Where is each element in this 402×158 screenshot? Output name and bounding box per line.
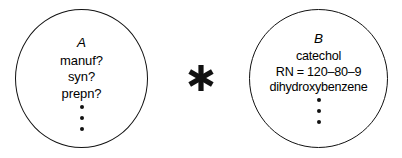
circle-node-b[interactable]: B catechol RN = 120–80–9 dihydroxybenzen… xyxy=(249,9,388,148)
circle-a-term-3: prepn? xyxy=(16,86,147,103)
circle-a-term-1: manuf? xyxy=(16,53,147,70)
circle-b-term-2: RN = 120–80–9 xyxy=(250,65,387,81)
circle-a-term-list: manuf? syn? prepn? xyxy=(16,53,147,103)
circle-b-term-3: dihydroxybenzene xyxy=(250,80,387,96)
diagram-canvas: A manuf? syn? prepn? B xyxy=(0,0,402,158)
circle-a-vertical-ellipsis xyxy=(77,105,87,131)
ellipsis-dot xyxy=(317,98,321,102)
ellipsis-dot xyxy=(317,120,321,124)
asterisk-icon xyxy=(185,61,217,95)
circle-b-vertical-ellipsis xyxy=(314,98,324,124)
circle-b-term-list: catechol RN = 120–80–9 dihydroxybenzene xyxy=(250,49,387,97)
circle-a-content: A manuf? syn? prepn? xyxy=(16,35,147,131)
circle-b-content: B catechol RN = 120–80–9 dihydroxybenzen… xyxy=(250,31,387,124)
ellipsis-dot xyxy=(80,127,84,131)
ellipsis-dot xyxy=(317,109,321,113)
circle-a-label: A xyxy=(16,35,147,51)
circle-a-term-2: syn? xyxy=(16,69,147,86)
ellipsis-dot xyxy=(80,116,84,120)
circle-b-term-1: catechol xyxy=(250,49,387,65)
circle-b-label: B xyxy=(250,31,387,47)
circle-node-a[interactable]: A manuf? syn? prepn? xyxy=(15,9,148,148)
ellipsis-dot xyxy=(80,105,84,109)
